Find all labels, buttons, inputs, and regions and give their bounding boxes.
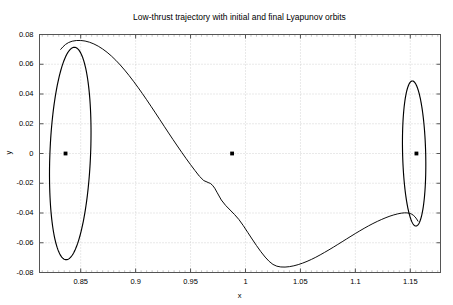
marker-L1 <box>64 152 68 156</box>
marker-Moon <box>230 152 234 156</box>
marker-L2 <box>415 152 419 156</box>
plot-area <box>0 0 453 305</box>
figure-canvas: Low-thrust trajectory with initial and f… <box>0 0 453 305</box>
